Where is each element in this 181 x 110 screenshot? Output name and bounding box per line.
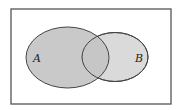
- set-b-label: B: [134, 52, 143, 65]
- venn-diagram: A B: [0, 0, 181, 110]
- set-a-label: A: [32, 52, 41, 65]
